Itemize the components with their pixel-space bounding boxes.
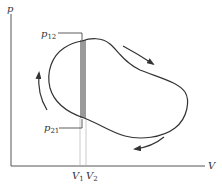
arrow-left-up-icon [39, 73, 47, 110]
p21-annotation: p21 [44, 119, 82, 135]
arrow-bottom-left-icon [135, 137, 164, 149]
v2-label: V2 [86, 170, 98, 183]
pv-diagram: p V p12 p21 V1 V2 [0, 0, 222, 188]
p21-label: p21 [44, 122, 59, 135]
p12-label: p12 [41, 28, 56, 41]
y-axis-label: p [7, 3, 14, 14]
x-axis-label: V [208, 160, 217, 171]
p12-leader-line [58, 33, 82, 40]
work-strip [80, 40, 86, 118]
v1-label: V1 [72, 170, 84, 183]
cycle-curve [49, 39, 188, 138]
p21-leader-line [59, 119, 82, 128]
p12-annotation: p12 [41, 28, 82, 41]
